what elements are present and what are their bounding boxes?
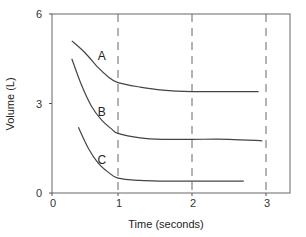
x-tick-label: 2: [190, 197, 196, 209]
curve-label-b: B: [98, 105, 106, 119]
curve-labels: ABC: [98, 49, 107, 167]
x-axis-title: Time (seconds): [128, 218, 203, 230]
y-axis-title: Volume (L): [4, 77, 16, 130]
volume-time-chart: 036 0123 ABC Time (seconds) Volume (L): [0, 0, 306, 237]
y-tick-label: 0: [36, 187, 42, 199]
plot-frame: [52, 14, 290, 193]
curve-b: [72, 59, 262, 141]
x-axis: 0123: [50, 193, 270, 209]
x-tick-label: 0: [50, 197, 56, 209]
y-tick-label: 3: [36, 98, 42, 110]
y-tick-label: 6: [36, 8, 42, 20]
y-axis: 036: [36, 8, 52, 199]
curve-label-a: A: [98, 49, 106, 63]
curve-label-c: C: [98, 153, 107, 167]
x-tick-label: 1: [116, 197, 122, 209]
reference-lines: [118, 14, 266, 193]
x-tick-label: 3: [264, 197, 270, 209]
